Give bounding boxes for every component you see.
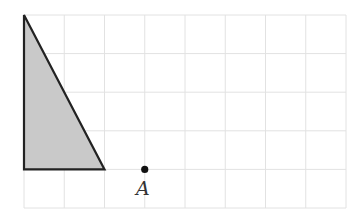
grid-diagram: A xyxy=(0,0,358,213)
point-a-label: A xyxy=(134,177,150,199)
point-a xyxy=(141,166,148,173)
